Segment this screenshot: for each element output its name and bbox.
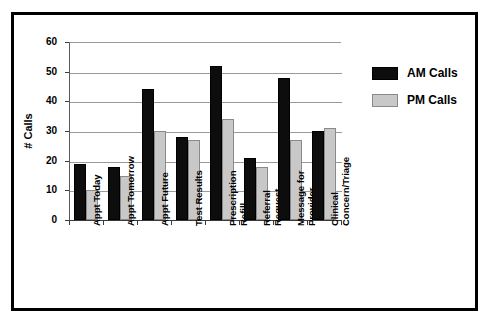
x-axis-tick-mark: [239, 221, 240, 225]
x-axis-tick-label: Appt Today: [92, 174, 103, 226]
legend-item-am-calls: AM Calls: [372, 66, 472, 80]
y-axis-tick-mark: [65, 42, 69, 43]
y-axis-tick-label: 20: [14, 156, 57, 166]
y-axis-tick-mark: [65, 131, 69, 132]
y-axis-tick-label: 30: [14, 126, 57, 136]
bar-am: [142, 89, 154, 220]
x-axis-tick-mark: [205, 221, 206, 225]
y-axis-tick-label: 40: [14, 96, 57, 106]
bar-am: [108, 167, 120, 220]
x-axis-tick-label: Appt Future: [160, 172, 171, 226]
gridline: [70, 73, 342, 74]
y-axis-tick-mark: [65, 101, 69, 102]
x-axis-tick-mark: [69, 221, 70, 225]
x-axis-tick-label: Appt Tomorrow: [126, 156, 137, 226]
x-axis-tick-mark: [341, 221, 342, 225]
chart-frame: # Calls 0102030405060 Appt TodayAppt Tom…: [11, 12, 478, 311]
x-axis-tick-mark: [171, 221, 172, 225]
x-axis-tick-mark: [137, 221, 138, 225]
y-axis-tick-label: 0: [14, 215, 57, 225]
gridline: [70, 102, 342, 103]
x-axis-tick-label: Test Results: [194, 170, 205, 226]
legend-swatch-am-icon: [372, 67, 398, 80]
legend-label-am: AM Calls: [407, 66, 458, 80]
bar-am: [74, 164, 86, 220]
bar-am: [278, 78, 290, 220]
y-axis-tick-label: 50: [14, 67, 57, 77]
bar-am: [244, 158, 256, 220]
legend-item-pm-calls: PM Calls: [372, 93, 472, 107]
bar-am: [176, 137, 188, 220]
x-axis-tick-mark: [273, 221, 274, 225]
gridline: [70, 132, 342, 133]
x-axis-tick-label: Clinical Concern/Triage: [330, 157, 351, 226]
legend-label-pm: PM Calls: [407, 93, 457, 107]
chart-figure: # Calls 0102030405060 Appt TodayAppt Tom…: [0, 0, 491, 326]
legend-swatch-pm-icon: [372, 94, 398, 107]
y-axis-tick-mark: [65, 72, 69, 73]
y-axis-tick-label: 10: [14, 185, 57, 195]
bar-am: [312, 131, 324, 220]
x-axis-tick-mark: [103, 221, 104, 225]
y-axis-tick-mark: [65, 220, 69, 221]
x-axis-tick-mark: [307, 221, 308, 225]
chart-legend: AM Calls PM Calls: [372, 66, 472, 120]
y-axis-tick-mark: [65, 190, 69, 191]
bar-am: [210, 66, 222, 220]
y-axis-tick-label: 60: [14, 37, 57, 47]
y-axis-tick-labels: 0102030405060: [14, 15, 69, 240]
y-axis-tick-mark: [65, 161, 69, 162]
